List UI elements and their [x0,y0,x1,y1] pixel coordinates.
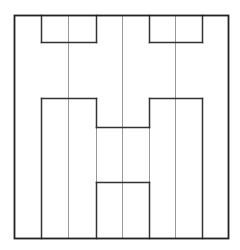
line-diagram [0,0,240,250]
